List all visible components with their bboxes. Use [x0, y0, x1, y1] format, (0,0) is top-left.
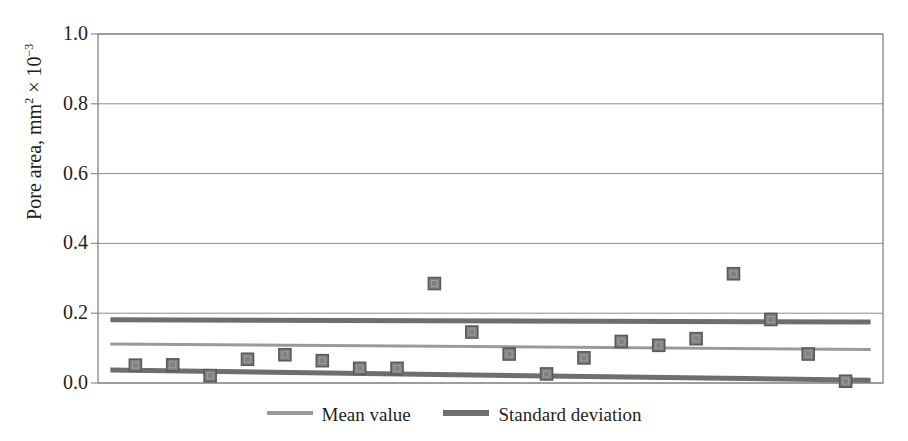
- chart-legend: Mean value Standard deviation: [0, 402, 908, 426]
- axes-group: [91, 34, 883, 383]
- data-point-marker: [466, 326, 478, 338]
- data-point-marker: [204, 370, 216, 382]
- data-point-marker: [615, 335, 627, 347]
- plot-frame: [98, 34, 883, 383]
- data-point-marker: [802, 348, 814, 360]
- legend-swatch-standard-deviation-line-icon: [443, 410, 489, 416]
- data-point-marker: [391, 362, 403, 374]
- series-lines-group: [110, 320, 870, 380]
- data-point-marker: [578, 352, 590, 364]
- data-point-marker: [541, 368, 553, 380]
- legend-label-standard-deviation: Standard deviation: [498, 404, 641, 426]
- data-point-marker: [840, 375, 852, 387]
- data-point-marker: [316, 355, 328, 367]
- data-point-marker: [167, 359, 179, 371]
- data-point-marker: [727, 268, 739, 280]
- standard-deviation-line-lower: [110, 370, 870, 380]
- plot-canvas: [0, 0, 908, 441]
- chart-figure: Pore area, mm2 × 10−3 0.00.20.40.60.81.0…: [0, 0, 908, 441]
- data-point-marker: [428, 278, 440, 290]
- data-point-marker: [354, 362, 366, 374]
- data-point-marker: [765, 313, 777, 325]
- data-point-marker: [503, 348, 515, 360]
- legend-swatch-mean-line-icon: [267, 411, 313, 415]
- legend-label-mean-value: Mean value: [322, 404, 411, 426]
- data-point-marker: [653, 339, 665, 351]
- legend-item-mean-value: Mean value: [267, 403, 411, 427]
- mean-value-line: [110, 344, 870, 350]
- legend-item-standard-deviation: Standard deviation: [443, 403, 641, 427]
- data-point-marker: [242, 353, 254, 365]
- gridlines-group: [98, 34, 883, 383]
- data-point-marker: [279, 349, 291, 361]
- data-point-marker: [690, 333, 702, 345]
- data-point-marker: [129, 359, 141, 371]
- standard-deviation-line-upper: [110, 320, 870, 322]
